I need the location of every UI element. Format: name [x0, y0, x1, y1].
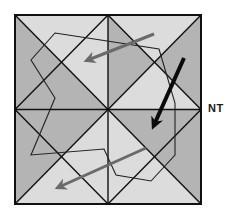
square-diagram — [0, 0, 240, 222]
nt-label: NT — [208, 102, 224, 114]
grid-lines — [15, 15, 201, 204]
